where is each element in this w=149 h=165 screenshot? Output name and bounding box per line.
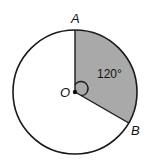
label-o: O (60, 85, 70, 100)
label-b: B (131, 123, 140, 138)
label-a: A (70, 11, 80, 26)
angle-label: 120° (97, 67, 122, 81)
center-point (73, 90, 77, 94)
circle-sector-diagram: A O B 120° (0, 0, 149, 165)
